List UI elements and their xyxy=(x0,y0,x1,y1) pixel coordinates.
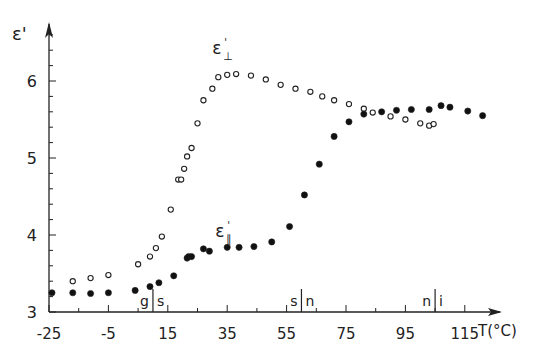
data-point-parallel xyxy=(346,119,352,125)
data-point-perpendicular xyxy=(147,254,152,259)
data-point-perpendicular xyxy=(263,77,268,82)
data-point-perpendicular xyxy=(179,177,184,182)
x-tick-label: 15 xyxy=(158,325,177,343)
data-point-perpendicular xyxy=(136,262,141,267)
data-point-perpendicular xyxy=(106,272,111,277)
data-point-perpendicular xyxy=(403,117,408,122)
data-point-parallel xyxy=(206,248,212,254)
data-point-perpendicular xyxy=(431,122,436,127)
data-point-perpendicular xyxy=(293,86,298,91)
data-point-perpendicular xyxy=(234,71,239,76)
y-tick-label: 4 xyxy=(27,226,37,245)
data-point-parallel xyxy=(408,106,414,112)
axis-ticks: -25-515355575951153456 xyxy=(27,35,479,343)
data-point-parallel xyxy=(465,108,471,114)
y-tick-label: 5 xyxy=(27,149,37,168)
phase-label: n xyxy=(305,293,314,309)
series-label: ε xyxy=(212,38,221,58)
data-point-parallel xyxy=(87,290,93,296)
data-point-parallel xyxy=(393,107,399,113)
data-point-parallel xyxy=(316,161,322,167)
data-point-perpendicular xyxy=(201,98,206,103)
data-point-parallel xyxy=(70,290,76,296)
data-point-perpendicular xyxy=(189,145,194,150)
y-tick-label: 6 xyxy=(27,72,37,91)
data-point-parallel xyxy=(301,192,307,198)
phase-label: s xyxy=(157,293,164,309)
data-point-perpendicular xyxy=(168,207,173,212)
data-point-parallel xyxy=(188,253,194,259)
svg-text:⊥: ⊥ xyxy=(223,50,233,63)
x-tick-label: 75 xyxy=(336,325,355,343)
data-point-parallel xyxy=(171,273,177,279)
svg-text:': ' xyxy=(227,220,230,231)
x-tick-label: 115 xyxy=(450,325,479,343)
x-tick-label: -5 xyxy=(101,325,116,343)
data-point-parallel xyxy=(105,290,111,296)
data-point-perpendicular xyxy=(88,276,93,281)
data-point-perpendicular xyxy=(370,110,375,115)
data-point-parallel xyxy=(147,283,153,289)
x-tick-label: 55 xyxy=(277,325,296,343)
data-point-perpendicular xyxy=(418,121,423,126)
series-label: ε xyxy=(215,221,224,241)
phase-label: n xyxy=(422,293,431,309)
x-tick-label: 95 xyxy=(396,325,415,343)
data-point-parallel xyxy=(236,244,242,250)
data-point-parallel xyxy=(361,111,367,117)
y-tick-label: 3 xyxy=(27,303,37,322)
data-point-perpendicular xyxy=(225,72,230,77)
series-labels: ε'⊥ε'∥ xyxy=(212,37,233,245)
data-point-parallel xyxy=(132,287,138,293)
data-point-parallel xyxy=(269,239,275,245)
data-point-perpendicular xyxy=(182,166,187,171)
x-axis-label: T(°C) xyxy=(477,322,517,340)
data-point-parallel xyxy=(331,133,337,139)
y-axis-label: ε' xyxy=(12,23,27,44)
data-point-parallel xyxy=(49,290,55,296)
data-point-perpendicular xyxy=(248,73,253,78)
data-point-perpendicular xyxy=(320,94,325,99)
x-tick-label: 35 xyxy=(218,325,237,343)
data-point-parallel xyxy=(426,106,432,112)
data-point-perpendicular xyxy=(159,234,164,239)
svg-text:∥: ∥ xyxy=(226,233,232,246)
data-point-perpendicular xyxy=(153,245,158,250)
data-point-perpendicular xyxy=(185,154,190,159)
phase-label: s xyxy=(290,293,297,309)
data-point-parallel xyxy=(200,246,206,252)
data-point-perpendicular xyxy=(70,279,75,284)
data-point-parallel xyxy=(286,223,292,229)
data-point-parallel xyxy=(480,113,486,119)
phase-transition-markers: gssnni xyxy=(140,289,443,312)
data-point-perpendicular xyxy=(388,114,393,119)
data-point-perpendicular xyxy=(195,121,200,126)
data-point-perpendicular xyxy=(361,106,366,111)
data-point-parallel xyxy=(251,243,257,249)
data-point-perpendicular xyxy=(308,89,313,94)
data-point-perpendicular xyxy=(210,86,215,91)
data-point-parallel xyxy=(438,103,444,109)
phase-label: i xyxy=(439,293,443,309)
phase-label: g xyxy=(140,293,149,309)
data-point-perpendicular xyxy=(332,98,337,103)
svg-text:': ' xyxy=(224,37,227,48)
data-point-perpendicular xyxy=(278,82,283,87)
data-point-parallel xyxy=(156,280,162,286)
data-point-perpendicular xyxy=(346,102,351,107)
data-point-parallel xyxy=(379,109,385,115)
x-tick-label: -25 xyxy=(37,325,62,343)
chart: ε'T(°C) -25-515355575951153456 gssnni ε'… xyxy=(0,0,549,361)
data-points xyxy=(49,71,486,296)
data-point-perpendicular xyxy=(216,75,221,80)
data-point-parallel xyxy=(447,104,453,110)
